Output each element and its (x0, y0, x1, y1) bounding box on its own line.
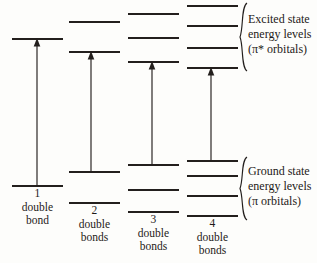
ground-line-2: energy levels (248, 179, 311, 194)
energy-level-diagram: 1 double bond 2 double bonds 3 double bo… (0, 0, 317, 263)
column-word2-4: bonds (174, 244, 252, 258)
column-word1-4: double (174, 231, 252, 245)
excited-state-annotation: Excited state energy levels (π* orbitals… (248, 12, 311, 58)
column-number-4: 4 (174, 217, 252, 231)
transition-arrows-layer (34, 38, 215, 186)
excited-line-1: Excited state (248, 12, 311, 27)
ground-line-1: Ground state (248, 164, 311, 179)
energy-levels-layer (12, 6, 238, 216)
excited-line-2: energy levels (248, 27, 311, 42)
column-label-4: 4 double bonds (174, 217, 252, 258)
ground-state-brace (240, 157, 247, 220)
column-number-1: 1 (0, 187, 77, 201)
brace-layer (240, 3, 247, 220)
ground-line-3: (π orbitals) (248, 194, 311, 209)
ground-state-annotation: Ground state energy levels (π orbitals) (248, 164, 311, 210)
excited-line-3: (π* orbitals) (248, 42, 311, 57)
excited-state-brace (240, 3, 247, 71)
